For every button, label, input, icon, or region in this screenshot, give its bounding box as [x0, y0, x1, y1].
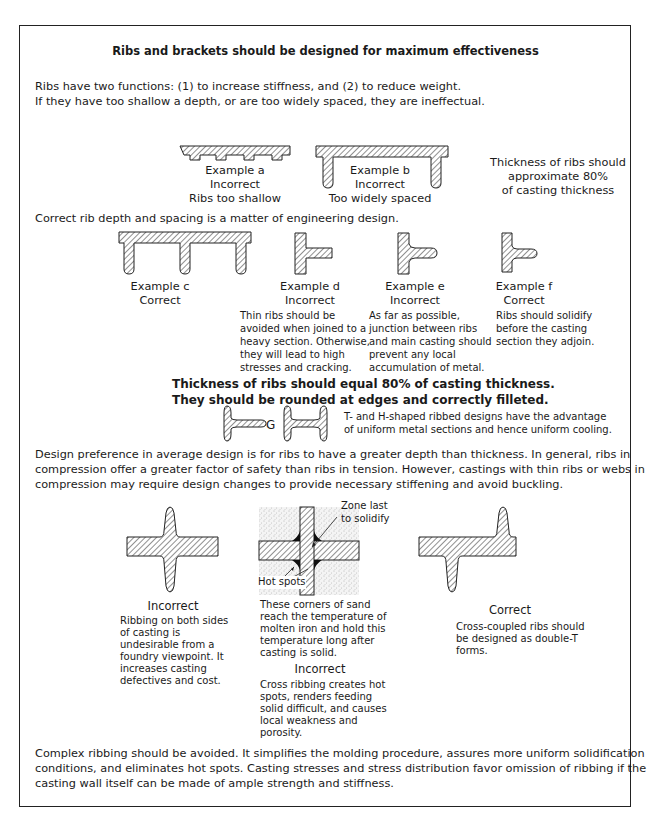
example-e-desc-2: junction between ribs [369, 323, 477, 336]
example-f-desc-3: section they adjoin. [496, 336, 594, 349]
cross-mid-desc-3: molten iron and hold this [260, 623, 386, 636]
h-shape-diagram [283, 405, 328, 442]
example-e-desc-5: accumulation of metal. [369, 362, 485, 375]
conclusion-line-3: casting wall itself can be made of ample… [35, 777, 394, 792]
cross-mid-desc-2: reach the temperature of [260, 611, 386, 624]
example-d-desc-1: Thin ribs should be [240, 310, 335, 323]
example-c-diagram [118, 231, 253, 276]
example-c-name: Example c [110, 280, 210, 295]
thickness-note-line-2: approximate 80% [478, 170, 638, 185]
cross-rib-both-sides-diagram [126, 505, 221, 595]
cross-left-desc-2: of casting is [120, 627, 180, 640]
example-d-desc-2: avoided when joined to a [240, 323, 366, 336]
example-d-desc-4: they will lead to high [240, 349, 345, 362]
example-e-verdict: Incorrect [365, 294, 465, 309]
zone-last-label-2: to solidify [341, 513, 390, 526]
example-d-verdict: Incorrect [260, 294, 360, 309]
example-f-verdict: Correct [474, 294, 574, 309]
design-pref-line-1: Design preference in average design is f… [35, 448, 630, 463]
example-b-verdict: Incorrect [315, 178, 445, 193]
cross-right-desc-3: forms. [456, 645, 488, 658]
example-f-desc-2: before the casting [496, 323, 587, 336]
example-b-name: Example b [315, 164, 445, 179]
example-e-desc-4: prevent any local [369, 349, 456, 362]
cross-mid-desc2-3: solid difficult, and causes [260, 703, 387, 716]
example-e-name: Example e [365, 280, 465, 295]
cross-mid-verdict: Incorrect [265, 662, 375, 677]
example-d-diagram [294, 232, 339, 277]
hot-spots-label: Hot spots [258, 576, 306, 589]
example-d-desc-5: stresses and cracking. [240, 362, 352, 375]
example-b-note: Too widely spaced [300, 192, 460, 207]
cross-mid-desc-5: casting is solid. [260, 647, 337, 660]
rib-depth-text: Correct rib depth and spacing is a matte… [35, 212, 399, 227]
cross-right-desc-2: be designed as double-T [456, 633, 578, 646]
cross-mid-desc-4: temperature long after [260, 635, 374, 648]
example-a-note: Ribs too shallow [170, 192, 300, 207]
t-shape-diagram [223, 405, 268, 442]
cross-mid-desc-1: These corners of sand [260, 599, 371, 612]
intro-line-1: Ribs have two functions: (1) to increase… [35, 80, 461, 95]
cross-left-verdict: Incorrect [118, 599, 228, 614]
design-pref-line-2: compression offer a greater factor of sa… [35, 463, 645, 478]
cross-mid-desc2-1: Cross ribbing creates hot [260, 679, 385, 692]
example-f-name: Example f [474, 280, 574, 295]
intro-line-2: If they have too shallow a depth, or are… [35, 95, 485, 110]
cross-mid-desc2-5: porosity. [260, 727, 302, 740]
cross-left-desc-1: Ribbing on both sides [120, 615, 228, 628]
cross-right-verdict: Correct [460, 603, 560, 618]
cross-mid-desc2-2: spots, renders feeding [260, 691, 372, 704]
example-e-desc-1: As far as possible, [369, 310, 460, 323]
example-g-label: G [266, 418, 275, 433]
bold-rule-line-1: Thickness of ribs should equal 80% of ca… [172, 376, 555, 392]
example-a-verdict: Incorrect [170, 178, 300, 193]
example-g-desc-2: of uniform metal sections and hence unif… [344, 424, 612, 437]
example-f-desc-1: Ribs should solidify [496, 310, 592, 323]
conclusion-line-1: Complex ribbing should be avoided. It si… [35, 747, 645, 762]
thickness-note-line-3: of casting thickness [478, 184, 638, 199]
cross-left-desc-6: defectives and cost. [120, 675, 221, 688]
design-pref-line-3: compression may require design changes t… [35, 478, 563, 493]
page-title: Ribs and brackets should be designed for… [0, 44, 651, 58]
conclusion-line-2: conditions, and eliminates hot spots. Ca… [35, 762, 646, 777]
example-g-desc-1: T- and H-shaped ribbed designs have the … [344, 411, 606, 424]
thickness-note-line-1: Thickness of ribs should [478, 156, 638, 171]
example-c-verdict: Correct [110, 294, 210, 309]
example-f-diagram [501, 232, 546, 277]
zone-last-label-1: Zone last [341, 500, 388, 513]
cross-rib-double-t-diagram [418, 505, 518, 595]
example-e-diagram [397, 232, 442, 277]
cross-left-desc-3: undesirable from a [120, 639, 214, 652]
cross-right-desc-1: Cross-coupled ribs should [456, 621, 585, 634]
cross-mid-desc2-4: local weakness and [260, 715, 358, 728]
example-a-name: Example a [170, 164, 300, 179]
cross-left-desc-5: increases casting [120, 663, 207, 676]
example-d-desc-3: heavy section. Otherwise, [240, 336, 370, 349]
example-e-desc-3: and main casting should [369, 336, 492, 349]
cross-left-desc-4: foundry viewpoint. It [120, 651, 224, 664]
example-d-name: Example d [260, 280, 360, 295]
